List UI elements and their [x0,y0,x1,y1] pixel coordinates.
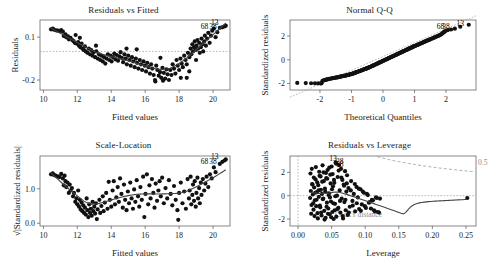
data-point [202,188,206,192]
data-point [167,178,171,182]
x-tick-label: 20 [209,231,217,240]
outlier-point-label: 38 [442,22,450,31]
outlier-point-label: 38 [209,22,217,31]
outlier-point-label: 38 [209,157,217,166]
data-point [167,78,171,82]
data-point [140,198,144,202]
data-point [170,203,174,207]
data-point [187,69,191,73]
data-point [198,201,202,205]
data-point [350,199,354,203]
data-point [327,166,331,170]
data-point [158,179,162,183]
data-point [361,189,365,193]
data-point [111,188,115,192]
data-point [154,64,158,68]
data-point [78,36,82,40]
data-point [322,217,326,221]
data-point [187,196,191,200]
data-point [142,215,146,219]
data-point [334,215,338,219]
data-point [311,201,315,205]
data-point [128,180,132,184]
x-tick-label: -1 [348,95,355,104]
data-point [145,172,149,176]
x-axis-label: Leverage [366,248,399,258]
y-axis-label: √|Standardized residuals| [12,146,22,236]
data-point [338,199,342,203]
outlier-point-label: 68 [336,160,344,169]
data-point [101,194,105,198]
data-point [146,202,150,206]
data-point [181,65,185,69]
data-point [351,203,355,207]
data-point [124,46,128,50]
data-point [204,175,208,179]
data-point [152,206,156,210]
outlier-point-label: 68 [201,22,209,31]
data-point [102,209,106,213]
data-point [199,193,203,197]
data-point [318,203,322,207]
data-point [118,176,122,180]
data-point [107,180,111,184]
data-point [373,209,377,213]
plot-area-residuals-vs-fitted: 1012141618200.1-0.2136838Fitted valuesRe… [0,0,247,135]
data-point [208,41,212,45]
data-point [320,163,324,167]
x-axis-label: Theoretical Quantiles [344,112,422,122]
data-point [315,180,319,184]
data-point [315,211,319,215]
data-point [178,56,182,60]
data-point [169,73,173,77]
data-point [85,196,89,200]
x-tick-label: -2 [317,95,324,104]
data-point [135,178,139,182]
y-tick-label: 1.0 [25,185,35,194]
data-point [182,54,186,58]
data-point [192,199,196,203]
data-point [121,60,125,64]
data-point [174,58,178,62]
plot-area-scale-location: 1012141618200.01.0136838Fitted values√|S… [0,134,247,270]
data-point [355,201,359,205]
data-point [154,181,158,185]
data-point [314,204,318,208]
data-point [140,68,144,72]
data-point [126,189,130,193]
data-point [94,44,98,48]
data-point [224,157,228,161]
data-point [201,49,205,53]
data-point [123,198,127,202]
x-tick-label: 0.00 [291,231,305,240]
x-tick-label: 2 [444,95,448,104]
data-point [328,195,332,199]
data-point [190,193,194,197]
data-point [184,207,188,211]
x-tick-label: 0.05 [325,231,339,240]
data-point [97,198,101,202]
x-tick-label: 0.15 [392,231,406,240]
y-tick-label: 2 [281,32,285,41]
data-point [314,198,318,202]
data-point [116,59,120,63]
outlier-point-label: 68 [201,157,209,166]
x-tick-label: 0.25 [459,231,473,240]
data-point [161,79,165,83]
data-point [152,73,156,77]
data-point [343,198,347,202]
data-point [160,176,164,180]
data-point [141,175,145,179]
data-point [156,188,160,192]
data-point [153,79,157,83]
data-point [172,184,176,188]
data-point [149,62,153,66]
cook-distance-contour [377,157,474,172]
data-point [377,210,381,214]
data-point [175,208,179,212]
data-point [329,181,333,185]
data-point [136,66,140,70]
x-tick-label: 20 [209,95,217,104]
data-point [194,205,198,209]
data-point [121,206,125,210]
